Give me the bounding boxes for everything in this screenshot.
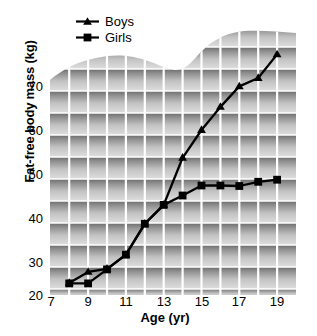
y-axis-title: Fat-free body mass (kg) bbox=[22, 7, 37, 217]
chart-canvas bbox=[0, 0, 317, 336]
x-tick-label-11: 11 bbox=[114, 294, 138, 309]
x-tick-label-7: 7 bbox=[39, 294, 63, 309]
clipped-caption-text bbox=[40, 329, 280, 336]
x-tick-label-19: 19 bbox=[265, 294, 289, 309]
legend-label-boys: Boys bbox=[105, 14, 134, 29]
y-tick-label-50: 50 bbox=[13, 167, 43, 182]
x-axis-title: Age (yr) bbox=[40, 310, 290, 325]
x-tick-label-9: 9 bbox=[76, 294, 100, 309]
x-tick-label-17: 17 bbox=[227, 294, 251, 309]
y-tick-label-30: 30 bbox=[13, 255, 43, 270]
y-tick-label-40: 40 bbox=[13, 211, 43, 226]
legend-markers bbox=[76, 17, 99, 41]
chart-figure: Fat-free body mass (kg) Age (yr) 70 60 5… bbox=[0, 0, 317, 336]
x-tick-label-13: 13 bbox=[152, 294, 176, 309]
x-tick-label-15: 15 bbox=[190, 294, 214, 309]
legend-label-girls: Girls bbox=[105, 30, 132, 45]
y-tick-label-60: 60 bbox=[13, 123, 43, 138]
y-tick-label-70: 70 bbox=[13, 79, 43, 94]
